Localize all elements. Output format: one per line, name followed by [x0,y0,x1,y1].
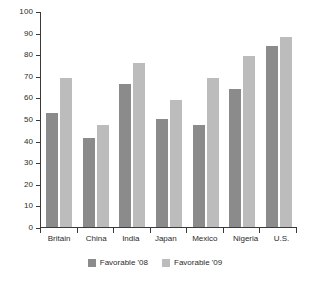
bar [133,63,145,227]
bar [229,89,241,227]
bar [156,119,168,227]
x-axis-label: Mexico [192,234,217,244]
x-axis-ticks [40,228,297,233]
y-axis-tick-label: 30 [24,159,33,167]
y-axis-tick-label: 100 [19,8,33,16]
y-axis-tick-label: 90 [24,30,33,38]
bar [97,125,109,227]
x-axis-tick-mark [77,228,78,233]
bar [83,138,95,227]
x-axis-label: Japan [155,234,177,244]
bar [60,78,72,227]
bars-layer [41,12,297,227]
y-axis-tick-label: 50 [24,116,33,124]
y-axis-tick-label: 0 [28,224,33,232]
legend-item[interactable]: Favorable '09 [162,258,222,267]
x-axis-tick-mark [40,228,41,233]
bar-group [229,12,255,227]
chart-legend: Favorable '08Favorable '09 [0,258,310,267]
y-axis-tick-label: 20 [24,181,33,189]
x-axis-label: Nigeria [233,234,258,244]
plot-area [40,12,297,228]
x-axis-tick-mark [150,228,151,233]
y-axis-tick-label: 10 [24,202,33,210]
y-axis-tick-label: 60 [24,94,33,102]
bar [207,78,219,227]
bar [280,37,292,227]
bar [193,125,205,227]
x-axis-tick-mark [223,228,224,233]
x-axis-tick-mark [186,228,187,233]
y-axis-tick-label: 40 [24,138,33,146]
x-axis: BritainChinaIndiaJapanMexicoNigeriaU.S. [40,228,297,250]
bar [46,113,58,227]
bar-group [46,12,72,227]
bar-group [83,12,109,227]
legend-swatch-icon [162,259,170,267]
x-axis-label: U.S. [274,234,290,244]
x-axis-tick-mark [296,228,297,233]
bar-group [119,12,145,227]
bar-chart: 1009080706050403020100 BritainChinaIndia… [0,0,310,285]
legend-swatch-icon [88,259,96,267]
y-axis: 1009080706050403020100 [0,12,40,228]
bar-group [156,12,182,227]
bar-group [193,12,219,227]
bar-group [266,12,292,227]
legend-item[interactable]: Favorable '08 [88,258,148,267]
x-axis-label: China [86,234,107,244]
bar [119,84,131,227]
bar [266,46,278,227]
y-axis-tick-label: 80 [24,51,33,59]
x-axis-tick-mark [113,228,114,233]
y-axis-tick-label: 70 [24,73,33,81]
bar [170,100,182,227]
x-axis-labels: BritainChinaIndiaJapanMexicoNigeriaU.S. [40,234,297,244]
x-axis-label: Britain [48,234,71,244]
x-axis-label: India [122,234,139,244]
legend-label: Favorable '08 [100,258,148,267]
legend-label: Favorable '09 [174,258,222,267]
bar [243,56,255,227]
x-axis-tick-mark [259,228,260,233]
